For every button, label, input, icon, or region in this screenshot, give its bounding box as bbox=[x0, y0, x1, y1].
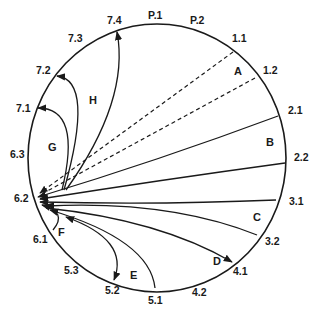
connection-3-2-to-6-2 bbox=[46, 205, 257, 235]
point-label-7-3: 7.3 bbox=[68, 32, 83, 44]
point-label-5-2: 5.2 bbox=[105, 284, 120, 296]
connection-2-2-to-6-2 bbox=[40, 163, 285, 199]
region-label-c: C bbox=[253, 211, 261, 223]
point-label-6-1: 6.1 bbox=[33, 233, 48, 245]
point-label-6-2: 6.2 bbox=[14, 192, 29, 204]
point-label-2-2: 2.2 bbox=[294, 151, 309, 163]
region-label-d: D bbox=[213, 255, 221, 267]
point-label-3-1: 3.1 bbox=[289, 195, 304, 207]
point-label-2-1: 2.1 bbox=[288, 104, 303, 116]
region-label-h: H bbox=[89, 94, 97, 106]
point-label-7-4: 7.4 bbox=[107, 14, 122, 26]
connection-5-1-to-6-2 bbox=[50, 210, 155, 288]
region-label-e: E bbox=[130, 269, 137, 281]
outer-circle bbox=[28, 24, 286, 292]
region-label-g: G bbox=[48, 141, 57, 153]
region-labels: A B C D E F G H bbox=[48, 65, 274, 281]
point-label-1-2: 1.2 bbox=[263, 64, 278, 76]
connection-6-2-to-4-1 bbox=[46, 208, 232, 262]
region-label-a: A bbox=[234, 65, 242, 77]
point-label-5-1: 5.1 bbox=[148, 294, 163, 306]
point-label-3-2: 3.2 bbox=[265, 235, 280, 247]
point-label-p2: P.2 bbox=[190, 14, 205, 26]
point-label-p1: P.1 bbox=[148, 9, 163, 21]
point-label-5-3: 5.3 bbox=[64, 264, 79, 276]
connection-2-1-to-6-2 bbox=[38, 116, 278, 197]
point-label-6-3: 6.3 bbox=[10, 148, 25, 160]
connection-3-1-to-6-2 bbox=[40, 200, 276, 203]
point-label-7-2: 7.2 bbox=[36, 64, 51, 76]
point-label-4-2: 4.2 bbox=[192, 286, 207, 298]
point-label-7-1: 7.1 bbox=[16, 102, 31, 114]
region-label-f: F bbox=[58, 226, 65, 238]
circular-connection-diagram: P.1 P.2 1.1 1.2 2.1 2.2 3.1 3.2 4.1 4.2 … bbox=[0, 0, 315, 314]
point-label-4-1: 4.1 bbox=[233, 265, 248, 277]
region-label-b: B bbox=[266, 136, 274, 148]
point-label-1-1: 1.1 bbox=[232, 32, 247, 44]
